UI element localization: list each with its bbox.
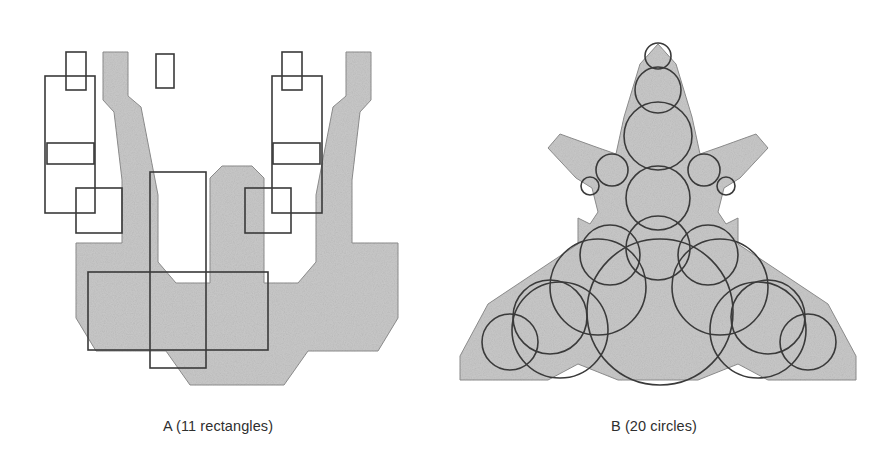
panel-b-caption: B (20 circles) [436, 418, 872, 434]
silhouette-group-a [76, 52, 398, 385]
rect-right-shoulder-bar [273, 143, 320, 164]
panel-b: B (20 circles) [436, 0, 872, 472]
rect-left-elbow-block [76, 188, 122, 233]
silhouette-group-b [460, 44, 856, 380]
rect-right-upper-arm [272, 76, 322, 213]
rect-left-antenna [66, 52, 86, 90]
panel-b-canvas [436, 0, 872, 410]
figure-sheet: A (11 rectangles) B (20 circles) [0, 0, 873, 472]
rect-left-upper-arm [45, 76, 95, 213]
insect-figure-silhouette [460, 44, 856, 380]
panel-a: A (11 rectangles) [0, 0, 436, 472]
panel-a-canvas [0, 0, 436, 410]
panel-a-caption: A (11 rectangles) [0, 418, 436, 434]
rect-right-antenna [282, 52, 302, 90]
rect-head-cap [156, 54, 174, 88]
rect-left-shoulder-bar [47, 143, 94, 164]
robot-figure-silhouette [76, 52, 398, 385]
